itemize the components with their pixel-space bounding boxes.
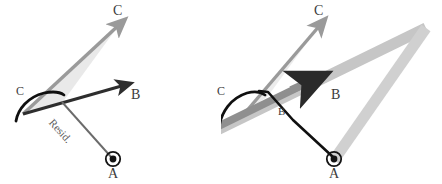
- label-vector-c: C: [113, 4, 122, 18]
- panel-right: C B A C B: [221, 0, 442, 184]
- label-vector-c: C: [314, 4, 323, 18]
- label-point-a: A: [329, 167, 339, 181]
- label-point-a: A: [108, 167, 118, 181]
- point-a-dot: [331, 156, 338, 163]
- label-vector-b: B: [331, 88, 340, 102]
- point-a-dot: [110, 156, 117, 163]
- panel-left-graphics: [0, 0, 221, 184]
- label-bent-b: B: [278, 106, 285, 117]
- label-vertex-c: C: [16, 85, 24, 97]
- figure-container: C B A C Resid.: [0, 0, 442, 184]
- residual-line: [62, 102, 112, 158]
- panel-left: C B A C Resid.: [0, 0, 221, 184]
- label-vector-b: B: [131, 88, 140, 102]
- label-vertex-c: C: [217, 85, 225, 97]
